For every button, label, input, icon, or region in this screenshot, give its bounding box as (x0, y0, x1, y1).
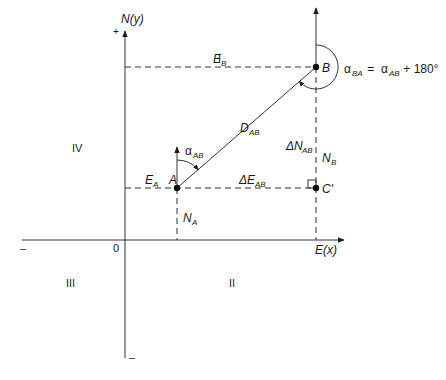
d-ab-label-main: D (240, 121, 249, 135)
delta-e-ab-label-sub: AB (254, 180, 266, 189)
point-c-prime (313, 185, 319, 191)
quadrant-ii-label: II (229, 277, 235, 289)
n-a-label-sub: A (191, 218, 197, 227)
alpha-ba-equation-rhs-sub: AB (388, 69, 400, 78)
alpha-ba-equation-rhs-tail: + 180° (400, 62, 439, 76)
alpha-ba-equation-rhs-main: α (381, 62, 388, 76)
delta-e-ab-label-main: ΔE (238, 173, 256, 187)
x-minus-sign: – (20, 242, 27, 254)
alpha-ba-equation-lhs-sub: BA (352, 69, 363, 78)
n-b-label-main: N (322, 151, 331, 165)
point-b (313, 64, 319, 70)
e-b-label-sub: B (221, 59, 227, 68)
quadrant-iv-label: IV (72, 142, 83, 154)
origin-label: 0 (113, 242, 119, 254)
n-a-label-main: N (183, 211, 192, 225)
e-a-label-sub: A (152, 180, 158, 189)
alpha-ba-equation-lhs-main: α (344, 62, 351, 76)
bearing-diagram: N(y) + E(x) 0 – – I II III IV A B C′ E B… (0, 0, 446, 380)
point-c-prime-label: C′ (322, 182, 334, 196)
alpha-ba-equation-eq: = (364, 62, 378, 76)
n-b-label-sub: B (331, 158, 337, 167)
y-axis-label: N(y) (121, 12, 144, 26)
d-ab-label-sub: AB (248, 128, 260, 137)
delta-n-ab-label-sub: AB (301, 146, 313, 155)
y-plus-sign: + (113, 26, 119, 37)
x-axis-label: E(x) (315, 243, 337, 257)
y-minus-sign: – (129, 351, 136, 363)
alpha-ab-label-main: α (185, 144, 192, 158)
alpha-ab-label-sub: AB (192, 151, 204, 160)
quadrant-iii-label: III (66, 277, 75, 289)
alpha-ab-arc (177, 160, 198, 170)
point-b-label: B (322, 61, 330, 75)
point-a-label: A (168, 173, 177, 187)
delta-n-ab-label-main: ΔN (285, 139, 303, 153)
